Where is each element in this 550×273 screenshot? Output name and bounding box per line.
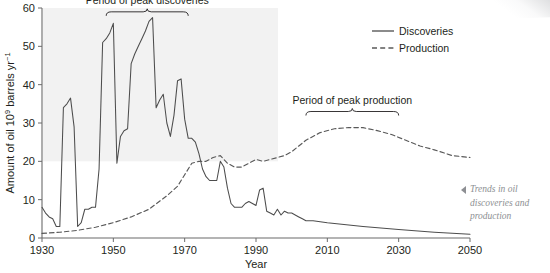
- y-tick-label-0: 0: [29, 232, 35, 244]
- x-tick-label-2010: 2010: [315, 244, 339, 256]
- caption-left-triangle-icon: [461, 186, 466, 194]
- annotation-label-0: Period of peak discoveries: [86, 0, 209, 6]
- y-tick-label-20: 20: [23, 155, 35, 167]
- y-axis-title-main: Amount of oil 10: [4, 114, 16, 194]
- chart-legend: Discoveries Production: [372, 25, 453, 54]
- x-tick-label-1930: 1930: [30, 244, 54, 256]
- x-tick-label-2030: 2030: [386, 244, 410, 256]
- x-axis-title: Year: [245, 258, 268, 270]
- x-tick-label-1990: 1990: [244, 244, 268, 256]
- x-axis-ticks: 1930195019701990201020302050: [30, 238, 482, 256]
- y-axis-ticks: 0102030405060: [23, 2, 42, 244]
- annotation-label-1: Period of peak production: [292, 94, 412, 106]
- y-tick-label-30: 30: [23, 117, 35, 129]
- plot-background-band: [43, 8, 278, 161]
- y-axis-title: Amount of oil 109 barrels yr−1: [3, 52, 16, 193]
- y-tick-label-40: 40: [23, 79, 35, 91]
- y-tick-label-60: 60: [23, 2, 35, 14]
- y-axis-title-exponent2: −1: [3, 52, 12, 61]
- y-axis-title-mid: barrels yr: [4, 61, 16, 110]
- legend-label-production: Production: [399, 42, 449, 54]
- oil-trends-line-chart: 0102030405060 19301950197019902010203020…: [0, 0, 550, 273]
- x-tick-label-1950: 1950: [101, 244, 125, 256]
- y-tick-label-50: 50: [23, 40, 35, 52]
- x-tick-label-2050: 2050: [458, 244, 482, 256]
- annotation-bracket-1: [306, 109, 399, 116]
- figure-oil-discoveries-production: 0102030405060 19301950197019902010203020…: [0, 0, 550, 273]
- figure-caption: Trends in oil discoveries and production: [470, 183, 550, 224]
- legend-label-discoveries: Discoveries: [399, 25, 453, 37]
- x-tick-label-1970: 1970: [172, 244, 196, 256]
- y-tick-label-10: 10: [23, 194, 35, 206]
